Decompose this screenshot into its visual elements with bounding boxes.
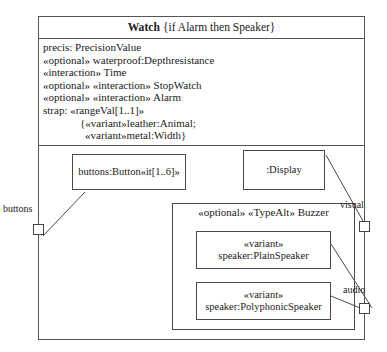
classifier-constraint: {if Alarm then Speaker} (163, 21, 275, 33)
attribute-line: «interaction» Time (43, 66, 361, 79)
port-audio[interactable] (359, 303, 370, 314)
port-visual-label: visual (340, 199, 364, 210)
part-buttons[interactable]: buttons:Button«it[1..6]» (72, 154, 186, 190)
part-buzzer-title: «optional» «TypeAlt» Buzzer (172, 206, 355, 218)
part-plain-speaker-stereotype: «variant» (218, 238, 308, 250)
attribute-line: {«variant»leather:Animal; (43, 117, 361, 130)
part-plain-speaker-label: speaker:PlainSpeaker (218, 250, 308, 262)
header-divider (38, 38, 365, 39)
part-plain-speaker[interactable]: «variant» speaker:PlainSpeaker (196, 231, 331, 269)
attribute-line: precis: PrecisionValue (43, 41, 361, 54)
part-polyphonic-speaker-stereotype: «variant» (205, 289, 322, 301)
port-audio-label: audio (343, 284, 365, 295)
port-buttons-label: buttons (3, 203, 32, 214)
part-polyphonic-speaker-label: speaker:PolyphonicSpeaker (205, 301, 322, 313)
part-polyphonic-speaker[interactable]: «variant» speaker:PolyphonicSpeaker (196, 282, 331, 320)
attribute-line: strap: «rangeVal[1..1]» (43, 104, 361, 117)
classifier-header: Watch {if Alarm then Speaker} (38, 16, 365, 38)
attribute-line: «optional» waterproof:Depthresistance (43, 54, 361, 67)
attributes-divider (38, 145, 365, 146)
attributes-compartment: precis: PrecisionValue «optional» waterp… (43, 41, 361, 142)
part-display-label: :Display (266, 164, 302, 176)
attribute-line: «optional» «interaction» Alarm (43, 91, 361, 104)
port-visual[interactable] (359, 221, 370, 232)
diagram-canvas: Watch {if Alarm then Speaker} precis: Pr… (0, 0, 387, 352)
part-display[interactable]: :Display (243, 150, 325, 190)
classifier-name: Watch (128, 21, 160, 33)
port-buttons[interactable] (33, 224, 44, 235)
attribute-line: «variant»metal:Width} (43, 129, 361, 142)
attribute-line: «optional» «interaction» StopWatch (43, 79, 361, 92)
part-buttons-label: buttons:Button«it[1..6]» (78, 166, 180, 178)
